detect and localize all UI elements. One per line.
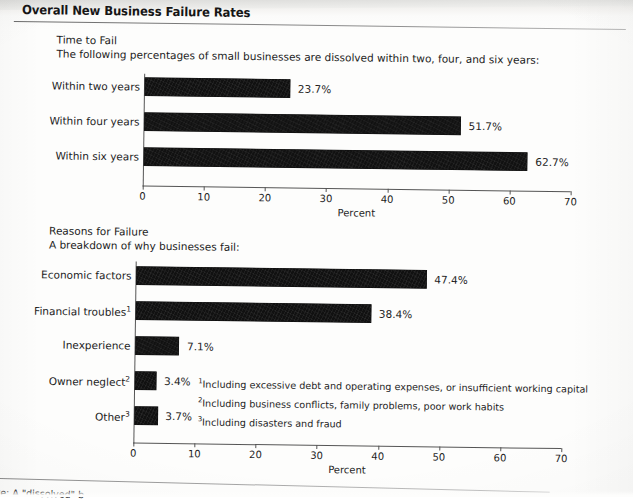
x-axis-tick: [194, 443, 195, 447]
x-axis-tick-label: 40: [372, 194, 402, 205]
bar-value-label: 23.7%: [298, 83, 332, 95]
bar-texture: [135, 407, 158, 425]
x-axis-tick-label: 20: [250, 192, 280, 203]
bar-value-label: 62.7%: [535, 156, 569, 168]
x-axis-tick-label: 70: [546, 453, 576, 464]
bar-value-label: 47.4%: [434, 273, 468, 285]
x-axis-tick: [561, 448, 562, 452]
bar-texture: [135, 337, 179, 356]
x-axis-tick-label: 60: [494, 195, 524, 206]
x-axis-tick-label: 10: [189, 191, 219, 202]
footnote-marker: 2: [198, 396, 203, 404]
bar-category-label: Within four years: [14, 114, 139, 128]
bar-category-label: Within six years: [14, 149, 139, 163]
bar-value-label: 7.1%: [187, 340, 214, 352]
bar-value-label: 51.7%: [469, 120, 503, 132]
footnote: 2Including business conflicts, family pr…: [198, 396, 504, 412]
bar: [135, 372, 156, 390]
bar-category-label: Owner neglect2: [12, 373, 130, 388]
bar-category-label: Other3: [12, 408, 130, 423]
page-bottom-edge: [0, 491, 633, 497]
x-axis-tick: [143, 186, 144, 190]
bar-texture: [145, 78, 290, 98]
x-axis-title: Percent: [296, 207, 416, 220]
bar: [144, 113, 460, 135]
bar: [145, 78, 290, 98]
x-axis-tick: [265, 187, 266, 191]
bar: [135, 407, 158, 425]
bar: [136, 302, 371, 323]
bar-value-label: 38.4%: [379, 308, 413, 320]
x-axis-tick-label: 30: [311, 193, 341, 204]
section-bottom-subheading: A breakdown of why businesses fail:: [49, 238, 240, 252]
x-axis-tick: [256, 444, 257, 448]
bar-value-label: 3.4%: [164, 375, 191, 387]
x-axis-tick-label: 60: [485, 452, 515, 463]
x-axis-tick-label: 0: [118, 447, 148, 458]
x-axis-tick-label: 70: [555, 196, 585, 207]
bar-category-label: Financial troubles1: [13, 303, 131, 318]
section-top-subheading: The following percentages of small busin…: [56, 47, 539, 65]
x-axis-tick: [571, 191, 572, 195]
footnote-marker: 3: [198, 415, 203, 423]
x-axis-tick: [133, 443, 134, 447]
section-bottom-heading: Reasons for Failure: [49, 224, 149, 237]
bar-category-label: Inexperience: [13, 338, 131, 352]
bar-category-label: Within two years: [15, 79, 140, 93]
bar-texture: [135, 372, 156, 390]
x-axis-tick: [378, 446, 379, 450]
x-axis-tick-label: 0: [128, 190, 158, 201]
section-top-heading: Time to Fail: [57, 33, 117, 46]
footnote: 3Including disasters and fraud: [198, 415, 342, 429]
x-axis-tick-label: 50: [424, 451, 454, 462]
bar: [144, 148, 528, 171]
x-axis-tick-label: 50: [433, 194, 463, 205]
footnote: 1Including excessive debt and operating …: [198, 377, 588, 394]
x-axis-tick-label: 40: [363, 451, 393, 462]
x-axis-tick-label: 10: [179, 448, 209, 459]
bar: [136, 267, 426, 289]
bar-texture: [144, 148, 528, 171]
x-axis-tick: [317, 445, 318, 449]
x-axis-tick: [509, 190, 510, 194]
x-axis-tick: [204, 186, 205, 190]
bar-category-label: Economic factors: [13, 268, 131, 282]
x-axis-tick-label: 20: [240, 449, 270, 460]
x-axis-title: Percent: [287, 464, 407, 477]
x-axis-tick-label: 30: [302, 450, 332, 461]
title-divider: [14, 21, 626, 30]
bar: [135, 337, 179, 356]
x-axis-tick: [439, 447, 440, 451]
bar-texture: [136, 302, 371, 323]
bar-value-label: 3.7%: [165, 410, 192, 422]
footnote-marker: 1: [198, 377, 203, 385]
bar-texture: [144, 113, 460, 135]
x-axis-tick: [500, 447, 501, 451]
bar-texture: [136, 267, 426, 289]
x-axis-tick: [387, 189, 388, 193]
x-axis-tick: [326, 188, 327, 192]
page-content: Overall New Business Failure Rates Time …: [0, 0, 633, 503]
page-title: Overall New Business Failure Rates: [22, 2, 251, 20]
x-axis-tick: [448, 190, 449, 194]
